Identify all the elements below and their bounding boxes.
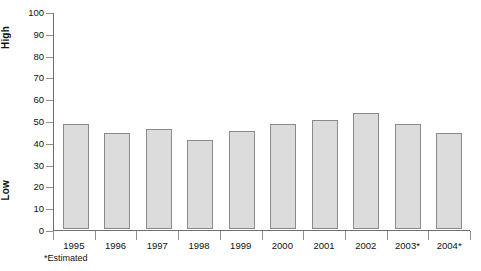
bar-slot xyxy=(304,13,346,229)
y-axis-labels: 0102030405060708090100 xyxy=(18,7,44,231)
y-axis-tick-label: 20 xyxy=(18,183,44,193)
bar-1997 xyxy=(146,129,172,229)
bar-2001 xyxy=(312,120,338,229)
y-axis-tick-mark xyxy=(46,187,53,188)
x-axis-tick-label: 1999 xyxy=(220,239,262,253)
bar-1999 xyxy=(229,131,255,229)
x-axis-tick-label: 2002 xyxy=(345,239,387,253)
plot-area xyxy=(53,13,470,231)
y-axis-tick-label: 80 xyxy=(18,52,44,62)
y-axis-tick-mark xyxy=(46,78,53,79)
y-axis-tick-mark xyxy=(46,166,53,167)
bar-slot xyxy=(346,13,388,229)
x-axis-tick-label: 2000 xyxy=(262,239,304,253)
bar-2003-est xyxy=(395,124,421,229)
x-axis-tick-mark xyxy=(470,231,471,240)
bar-slot xyxy=(221,13,263,229)
bar-1998 xyxy=(187,140,213,229)
y-axis-tick-mark xyxy=(46,13,53,14)
bar-2004-est xyxy=(436,133,462,229)
bar-slot xyxy=(263,13,305,229)
y-axis-tick-label: 100 xyxy=(18,8,44,18)
y-axis-tick-label: 60 xyxy=(18,95,44,105)
x-axis-tick-label: 1998 xyxy=(178,239,220,253)
y-axis-tick-mark xyxy=(46,209,53,210)
bar-1996 xyxy=(104,133,130,229)
y-axis-tick-mark xyxy=(46,122,53,123)
x-axis-tick-label: 2003* xyxy=(387,239,429,253)
x-axis-tick-label: 1997 xyxy=(136,239,178,253)
x-axis-tick-label: 2004* xyxy=(428,239,470,253)
bar-group xyxy=(55,13,470,229)
x-axis-tick-label: 2001 xyxy=(303,239,345,253)
x-axis-tick-label: 1996 xyxy=(95,239,137,253)
y-axis-tick-mark xyxy=(46,144,53,145)
bar-slot xyxy=(180,13,222,229)
x-axis-tick-label: 1995 xyxy=(53,239,95,253)
y-axis-tick-label: 70 xyxy=(18,74,44,84)
y-axis-tick-label: 30 xyxy=(18,161,44,171)
y-axis-tick-label: 10 xyxy=(18,204,44,214)
x-axis-labels: 199519961997199819992000200120022003*200… xyxy=(53,239,470,253)
y-axis-tick-mark xyxy=(46,57,53,58)
y-axis-tick-label: 40 xyxy=(18,139,44,149)
y-axis-tick-label: 90 xyxy=(18,30,44,40)
y-axis-caption-high: High xyxy=(0,26,18,49)
bar-slot xyxy=(429,13,471,229)
y-axis-tick-label: 0 xyxy=(18,226,44,236)
bar-1995 xyxy=(63,124,89,229)
footnote: *Estimated xyxy=(44,253,88,263)
bar-2002 xyxy=(353,113,379,229)
bar-slot xyxy=(55,13,97,229)
y-axis-caption-low: Low xyxy=(0,180,18,201)
bar-2000 xyxy=(270,124,296,229)
y-axis-tick-mark xyxy=(46,231,53,232)
bar-slot xyxy=(138,13,180,229)
y-axis-tick-label: 50 xyxy=(18,117,44,127)
bar-chart: High Low 0102030405060708090100 19951996… xyxy=(0,0,481,271)
y-axis-tick-marks xyxy=(46,7,53,231)
bar-slot xyxy=(97,13,139,229)
bar-slot xyxy=(387,13,429,229)
y-axis-tick-mark xyxy=(46,35,53,36)
y-axis-tick-mark xyxy=(46,100,53,101)
